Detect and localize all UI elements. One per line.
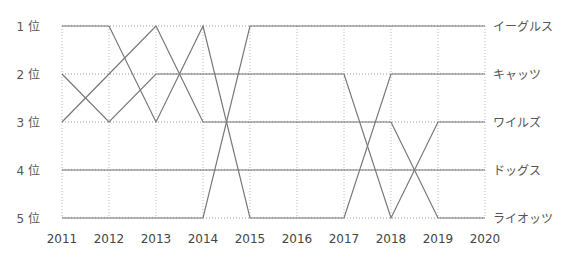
y-tick-label: 4 位 [0, 161, 40, 178]
x-tick-label: 2020 [465, 232, 505, 246]
series-line-2 [62, 74, 485, 218]
series-label: キャッツ [493, 65, 541, 82]
series-label: イーグルス [493, 17, 553, 34]
series-label: ワイルズ [493, 113, 541, 130]
y-tick-label: 5 位 [0, 209, 40, 226]
y-tick-label: 2 位 [0, 65, 40, 82]
y-tick-label: 3 位 [0, 113, 40, 130]
series-label: ドッグス [493, 161, 541, 178]
x-tick-label: 2012 [89, 232, 129, 246]
x-tick-label: 2017 [324, 232, 364, 246]
y-tick-label: 1 位 [0, 17, 40, 34]
x-tick-label: 2014 [183, 232, 223, 246]
x-tick-label: 2018 [371, 232, 411, 246]
x-tick-label: 2019 [418, 232, 458, 246]
x-tick-label: 2011 [42, 232, 82, 246]
x-tick-label: 2016 [277, 232, 317, 246]
series-label: ライオッツ [493, 209, 553, 226]
x-tick-label: 2015 [230, 232, 270, 246]
x-tick-label: 2013 [136, 232, 176, 246]
